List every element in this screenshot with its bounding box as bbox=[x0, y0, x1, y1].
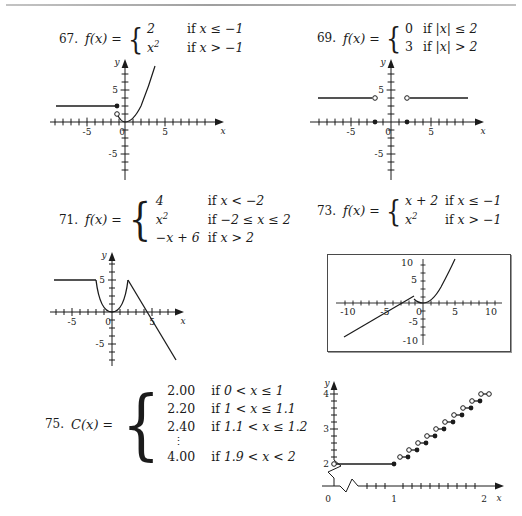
x-tick-label: 5 bbox=[452, 306, 458, 317]
closed-endpoint-dot bbox=[115, 104, 120, 109]
y-axis-arrow bbox=[388, 59, 395, 68]
case-value: x2 bbox=[147, 38, 187, 57]
y-axis-arrow bbox=[109, 252, 116, 261]
problem-69-function: f(x) bbox=[343, 31, 365, 46]
open-endpoint-dot bbox=[434, 427, 439, 432]
case-row: 2.00 if 0 < x ≤ 1 bbox=[167, 382, 307, 400]
graph-73-svg: -10 -5 0 5 10 10 5 -5 -10 bbox=[328, 255, 507, 348]
case-row: x2 if x > −1 bbox=[147, 38, 244, 57]
open-endpoint-dot bbox=[487, 392, 492, 397]
case-row: x + 2 if x ≤ −1 bbox=[405, 192, 502, 210]
x-axis-arrow bbox=[175, 309, 184, 316]
open-endpoint-dot bbox=[332, 462, 337, 467]
case-value: 2.00 bbox=[167, 382, 211, 400]
case-value: 3 bbox=[405, 38, 423, 56]
problem-75-statement: 75. C(x) = { 2.00 if 0 < x ≤ 1 2.20 if 1… bbox=[38, 382, 308, 467]
open-endpoint-dot bbox=[373, 96, 378, 101]
problem-71-brace: { bbox=[129, 198, 151, 242]
y-tick-label: -5 bbox=[109, 149, 118, 159]
case-row: 2.20 if 1 < x ≤ 1.1 bbox=[167, 400, 307, 418]
case-row: −x + 6 if x > 2 bbox=[156, 229, 291, 247]
case-condition: if 0 < x ≤ 1 bbox=[211, 382, 283, 400]
problem-67: 67. f(x) = { 2 if x ≤ −1 x2 if x > −1 bbox=[52, 20, 243, 57]
problem-71: 71. f(x) = { 4 if x < −2 x2 if −2 ≤ x ≤ … bbox=[52, 192, 291, 248]
y-axis-arrow bbox=[122, 59, 129, 68]
problem-71-function: f(x) bbox=[85, 212, 107, 227]
open-endpoint-dot bbox=[452, 413, 457, 418]
y-tick-label: -5 bbox=[409, 316, 418, 327]
problem-75-equals: = bbox=[102, 417, 112, 432]
problem-69-brace: { bbox=[386, 23, 401, 53]
problem-69-statement: 69. f(x) = { 0 if |x| ≤ 2 3 if |x| > 2 bbox=[310, 20, 477, 56]
graph-75-svg: 2 3 4 0 1 2 x y bbox=[300, 374, 520, 516]
graph-69: -5 0 5 5 -5 x y bbox=[296, 56, 496, 190]
x-axis-arrow bbox=[475, 119, 484, 126]
case-condition: if x < −2 bbox=[208, 192, 265, 210]
x-axis-label: x bbox=[180, 316, 185, 326]
x-axis-label: x bbox=[220, 126, 225, 136]
case-condition: if 1 < x ≤ 1.1 bbox=[211, 400, 295, 418]
x-tick-label: 0 bbox=[325, 494, 331, 504]
case-row: 2.40 if 1.1 < x ≤ 1.2 bbox=[167, 418, 307, 436]
y-tick-label: 5 bbox=[99, 275, 105, 285]
open-endpoint-dot bbox=[461, 406, 466, 411]
closed-endpoint-dot bbox=[433, 434, 438, 439]
y-tick-label: 2 bbox=[323, 459, 329, 469]
case-value: 4 bbox=[156, 192, 208, 210]
x-tick-label: -5 bbox=[380, 306, 389, 317]
x-tick-label: 5 bbox=[428, 127, 434, 137]
x-tick-label: 2 bbox=[481, 494, 487, 504]
x-axis-break-zigzag bbox=[340, 479, 358, 492]
open-endpoint-dot bbox=[416, 441, 421, 446]
closed-endpoint-dot bbox=[469, 406, 474, 411]
closed-endpoint-dot bbox=[478, 399, 483, 404]
case-condition: if x > −1 bbox=[187, 39, 244, 57]
case-value: x2 bbox=[405, 210, 445, 229]
problem-75-brace: { bbox=[122, 386, 161, 462]
closed-endpoint-dot bbox=[451, 420, 456, 425]
parabola-branch bbox=[414, 259, 455, 303]
case-value: 2.20 bbox=[167, 400, 211, 418]
graph-75: 2 3 4 0 1 2 x y bbox=[300, 374, 520, 516]
graph-73-calculator-window: -10 -5 0 5 10 10 5 -5 -10 bbox=[327, 254, 511, 352]
closed-endpoint-dot bbox=[392, 462, 397, 467]
problem-73-statement: 73. f(x) = { x + 2 if x ≤ −1 x2 if x > −… bbox=[310, 192, 501, 229]
closed-endpoint-dot bbox=[442, 427, 447, 432]
case-condition: if −2 ≤ x ≤ 2 bbox=[208, 211, 291, 229]
exercise-page: 67. f(x) = { 2 if x ≤ −1 x2 if x > −1 bbox=[0, 0, 522, 516]
case-row-ellipsis: ⋮ bbox=[167, 436, 307, 448]
problem-75-function: C(x) bbox=[71, 417, 98, 432]
x-axis-label: x bbox=[480, 126, 485, 136]
x-axis-label: x bbox=[496, 493, 501, 503]
open-endpoint-dot bbox=[405, 96, 410, 101]
problem-71-equals: = bbox=[111, 212, 121, 227]
case-value: 2 bbox=[147, 20, 187, 38]
case-value: x + 2 bbox=[405, 192, 445, 210]
y-tick-label: 5 bbox=[112, 85, 118, 95]
case-value: 4.00 bbox=[167, 448, 211, 466]
problem-69-equals: = bbox=[369, 31, 379, 46]
closed-endpoint-dot bbox=[406, 455, 411, 460]
problem-67-equals: = bbox=[111, 31, 121, 46]
case-value: x2 bbox=[156, 210, 208, 229]
problem-73-brace: { bbox=[386, 196, 401, 226]
problem-69-number: 69. bbox=[310, 31, 336, 45]
y-tick-label: -5 bbox=[375, 149, 384, 159]
y-axis-arrow bbox=[331, 381, 338, 390]
x-tick-label: 10 bbox=[485, 306, 497, 317]
y-tick-label: -5 bbox=[96, 339, 105, 349]
case-condition: if 1.1 < x ≤ 1.2 bbox=[211, 418, 307, 436]
case-row: 0 if |x| ≤ 2 bbox=[405, 20, 477, 38]
problem-73-function: f(x) bbox=[343, 203, 365, 218]
problem-71-statement: 71. f(x) = { 4 if x < −2 x2 if −2 ≤ x ≤ … bbox=[52, 192, 291, 248]
x-axis-arrow bbox=[215, 119, 224, 126]
problem-75: 75. C(x) = { 2.00 if 0 < x ≤ 1 2.20 if 1… bbox=[38, 382, 308, 467]
problem-75-cases: 2.00 if 0 < x ≤ 1 2.20 if 1 < x ≤ 1.1 2.… bbox=[167, 382, 307, 467]
x-tick-label: 5 bbox=[149, 317, 155, 327]
problem-67-number: 67. bbox=[52, 32, 78, 46]
case-condition: if x > 2 bbox=[208, 229, 254, 247]
problem-67-statement: 67. f(x) = { 2 if x ≤ −1 x2 if x > −1 bbox=[52, 20, 243, 57]
problem-73-cases: x + 2 if x ≤ −1 x2 if x > −1 bbox=[405, 192, 502, 229]
x-tick-label: 0 bbox=[385, 127, 391, 137]
open-endpoint-dot bbox=[398, 455, 403, 460]
